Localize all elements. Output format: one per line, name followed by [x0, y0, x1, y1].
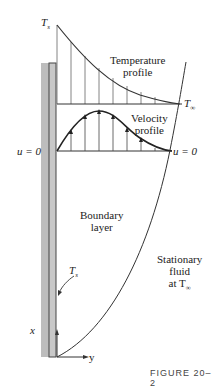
ts-wall-label: Ts	[69, 264, 78, 281]
stationary-fluid-label: Stationaryfluidat T∞	[157, 253, 202, 294]
y-axis-label: y	[89, 351, 95, 363]
wall-insulation	[41, 63, 49, 357]
temperature-profile-label: Temperatureprofile	[110, 54, 165, 78]
velocity-profile-label: Velocityprofile	[131, 112, 168, 136]
heated-plate	[49, 63, 56, 357]
x-axis-label: x	[30, 324, 35, 336]
ts-top-label: Ts	[41, 16, 50, 33]
u-zero-left-label: u = 0	[17, 145, 41, 157]
u-zero-right-label: u = 0	[173, 145, 197, 157]
boundary-layer-label: Boundarylayer	[80, 209, 123, 233]
figure-caption: FIGURE 20–2	[150, 368, 213, 388]
t-infinity-label: T∞	[184, 97, 195, 114]
